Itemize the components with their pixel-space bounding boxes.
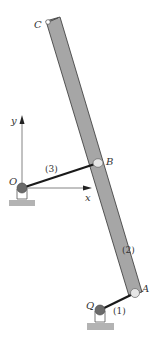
pivot-o [17,183,27,193]
label-c: C [34,19,42,30]
label-link-2: (2) [122,245,135,255]
label-b: B [105,156,113,167]
mechanism-diagram: C y O x B A Q (3) (2) (1) [0,0,161,353]
label-x: x [85,192,91,203]
label-link-3: (3) [45,164,58,174]
label-a: A [141,283,149,294]
pin-b [93,159,103,168]
link-3 [22,163,98,188]
pivot-q [95,305,105,315]
label-o: O [9,176,17,187]
x-axis [22,186,92,191]
label-link-1: (1) [113,306,126,316]
y-axis [20,115,25,188]
pin-a [131,289,140,298]
label-y: y [10,115,17,126]
label-q: Q [86,300,94,311]
